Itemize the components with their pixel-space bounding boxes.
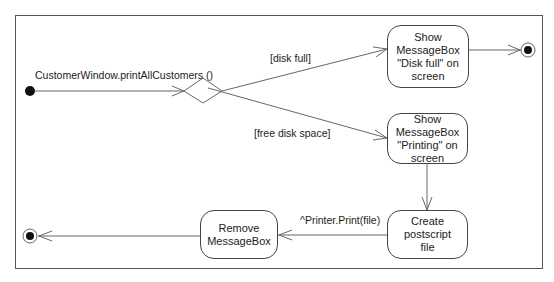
start-transition-label: CustomerWindow.printAllCustomers () xyxy=(35,69,213,81)
activity-create-postscript: Create postscript file xyxy=(387,210,468,259)
send-event-label: ^Printer.Print(file) xyxy=(300,214,380,226)
guard-free-disk-space: [free disk space] xyxy=(254,127,330,139)
final-node-bottom-dot xyxy=(26,232,34,240)
activity-diagram: CustomerWindow.printAllCustomers () [dis… xyxy=(0,0,554,282)
initial-node xyxy=(25,86,35,96)
activity-show-disk-full: Show MessageBox "Disk full" on screen xyxy=(387,25,469,88)
final-node-top-dot xyxy=(524,46,532,54)
activity-remove-messagebox: Remove MessageBox xyxy=(200,210,278,259)
guard-disk-full: [disk full] xyxy=(270,52,311,64)
activity-show-printing: Show MessageBox "Printing" on screen xyxy=(387,113,468,164)
